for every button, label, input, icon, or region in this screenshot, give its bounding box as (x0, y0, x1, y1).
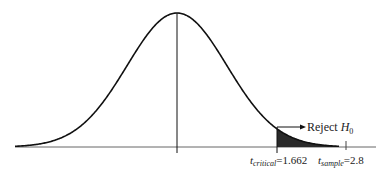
reject-label: Reject H0 (307, 120, 353, 136)
t-sample-label: tsample=2.8 (318, 154, 364, 168)
t-critical-label: tcritical=1.662 (250, 154, 307, 168)
arrowhead-icon (300, 125, 306, 130)
t-distribution-chart: Reject H0 tcritical=1.662 tsample=2.8 (0, 0, 387, 175)
